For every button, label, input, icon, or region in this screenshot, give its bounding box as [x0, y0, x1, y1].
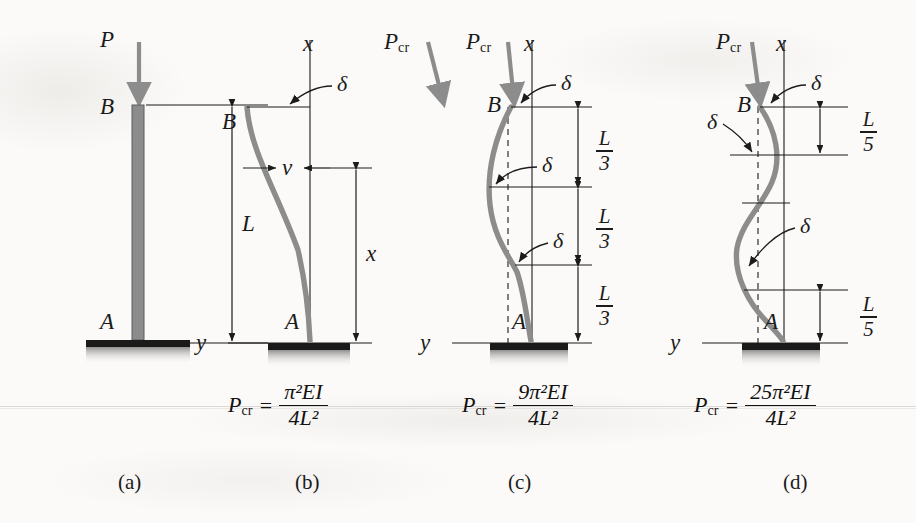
fixed-support-d: [742, 343, 820, 350]
load-label-c: Pcr: [466, 30, 491, 55]
formula-b-fraction: π²EI 4L²: [279, 381, 327, 430]
delta-label-c-1: δ: [561, 72, 571, 94]
dimension-label-L-a: L: [242, 212, 255, 235]
delta-leader-c-1: [521, 85, 556, 103]
axis-x-label-d: x: [776, 32, 786, 55]
delta-label-b: δ: [337, 73, 347, 95]
node-label-b-c: B: [487, 93, 501, 116]
segment-label-c-1: L 3: [596, 128, 613, 174]
panel-caption-c: (c): [508, 470, 531, 495]
delta-leader-d-2: [723, 124, 752, 152]
node-label-a-d: A: [764, 310, 778, 333]
formula-b-numerator: π²EI: [279, 381, 327, 405]
formula-d-equals: =: [726, 393, 738, 419]
axis-y-label-b: y: [196, 331, 206, 354]
formula-b-equals: =: [260, 393, 272, 419]
delta-label-d-1: δ: [811, 72, 821, 94]
load-label-a: P: [100, 28, 114, 51]
axis-x-label-c: x: [524, 32, 534, 55]
segment-label-d-top: L 5: [860, 109, 877, 155]
load-arrow-b: [428, 42, 443, 101]
figure-canvas: P B A L Pcr x B A y δ v x Pcr x B A y δ …: [0, 0, 916, 523]
load-arrow-d: [752, 42, 760, 101]
segment-label-d-bottom: L 5: [860, 294, 877, 340]
buckled-curve-c: [489, 107, 531, 341]
support-shadow-b: [268, 350, 350, 366]
formula-c: Pcr = 9π²EI 4L²: [462, 381, 573, 430]
delta-label-d-3: δ: [800, 215, 810, 237]
delta-label-c-2: δ: [542, 154, 552, 176]
delta-leader-d-1: [771, 85, 806, 103]
node-label-a-b: A: [285, 310, 299, 333]
formula-c-lhs: Pcr: [462, 392, 487, 419]
formula-c-numerator: 9π²EI: [513, 381, 572, 405]
segment-label-c-3: L 3: [596, 283, 613, 329]
node-label-a-c: A: [512, 310, 526, 333]
axis-y-label-d: y: [670, 331, 680, 354]
buckled-curve-b: [247, 107, 310, 341]
deflection-label-v-b: v: [282, 156, 292, 179]
delta-leader-c-2: [496, 167, 537, 184]
panel-b-graphics: [228, 40, 443, 366]
delta-label-d-2: δ: [707, 111, 717, 133]
buckled-curve-d: [736, 107, 783, 341]
delta-leader-d-3: [749, 228, 795, 266]
segment-label-c-2: L 3: [596, 206, 613, 252]
formula-c-equals: =: [494, 393, 506, 419]
formula-c-fraction: 9π²EI 4L²: [513, 381, 572, 430]
formula-b-lhs: Pcr: [228, 392, 253, 419]
panel-caption-d: (d): [783, 470, 808, 495]
panel-caption-a: (a): [118, 470, 141, 495]
formula-d-numerator: 25π²EI: [745, 381, 815, 405]
support-shadow-d: [742, 350, 820, 366]
node-label-b-b: B: [222, 110, 236, 133]
column-buckling-diagram: [0, 0, 916, 523]
formula-b-denominator: 4L²: [283, 406, 323, 430]
delta-label-c-3: δ: [553, 230, 563, 252]
dimension-label-x-b: x: [366, 242, 376, 265]
formula-c-denominator: 4L²: [523, 406, 563, 430]
column-member-a: [132, 105, 144, 340]
load-label-d: Pcr: [716, 30, 741, 55]
node-label-b-d: B: [737, 93, 751, 116]
panel-caption-b: (b): [295, 470, 320, 495]
support-shadow-c: [490, 350, 568, 366]
delta-leader-c-3: [519, 243, 548, 262]
formula-d-denominator: 4L²: [760, 406, 800, 430]
delta-leader-b: [290, 86, 332, 104]
formula-d-lhs: Pcr: [694, 392, 719, 419]
node-label-a-a: A: [100, 310, 114, 333]
formula-b: Pcr = π²EI 4L²: [228, 381, 328, 430]
axis-y-label-c: y: [420, 331, 430, 354]
fixed-support-a: [86, 340, 190, 347]
fixed-support-c: [490, 343, 568, 350]
load-arrow-c: [508, 42, 514, 101]
fixed-support-b: [268, 343, 350, 350]
formula-d: Pcr = 25π²EI 4L²: [694, 381, 816, 430]
axis-x-label-b: x: [303, 32, 313, 55]
load-label-b: Pcr: [384, 30, 409, 55]
support-shadow-a: [86, 347, 190, 363]
node-label-b-a: B: [100, 95, 114, 118]
formula-d-fraction: 25π²EI 4L²: [745, 381, 815, 430]
